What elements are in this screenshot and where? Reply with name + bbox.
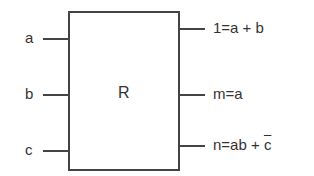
input-label-b: b — [25, 85, 33, 103]
output-label-n: n=ab + c — [213, 136, 271, 154]
input-label-a: a — [25, 29, 33, 47]
input-line-c — [43, 150, 68, 152]
input-line-b — [43, 94, 68, 96]
output-line-n — [180, 145, 205, 147]
output-expr-n: n=ab + — [213, 136, 264, 153]
output-line-1 — [180, 28, 205, 30]
c-bar: c — [264, 136, 272, 153]
block-label: R — [118, 84, 130, 102]
output-line-m — [180, 94, 205, 96]
input-label-c: c — [25, 141, 33, 159]
input-line-a — [43, 38, 68, 40]
output-label-m: m=a — [213, 85, 243, 103]
output-label-1: 1=a + b — [213, 19, 264, 37]
